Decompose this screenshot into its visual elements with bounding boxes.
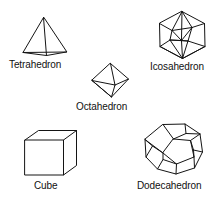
label-octahedron: Octahedron	[76, 101, 127, 112]
label-tetrahedron: Tetrahedron	[9, 59, 61, 70]
platonic-solids-figure: Tetrahedron Icosahedron Octahedron Cube …	[0, 0, 223, 198]
icosahedron-wireframe	[160, 12, 206, 59]
dodecahedron-wireframe	[145, 124, 203, 174]
cube-wireframe	[25, 131, 77, 176]
label-dodecahedron: Dodecahedron	[137, 180, 201, 191]
solids-line-drawing	[0, 0, 223, 198]
octahedron-wireframe	[92, 64, 129, 98]
tetrahedron-wireframe	[23, 18, 67, 56]
label-icosahedron: Icosahedron	[150, 61, 204, 72]
label-cube: Cube	[34, 180, 58, 191]
